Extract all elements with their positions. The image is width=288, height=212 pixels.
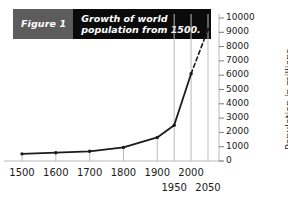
- chart-data-line: [22, 29, 208, 153]
- y-tick-label: 7000: [226, 55, 249, 65]
- x-tick-label: 1500: [9, 167, 34, 178]
- x-tick-label: 2000: [178, 167, 203, 178]
- x-tick-label: 1900: [145, 167, 170, 178]
- y-tick-label: 1000: [226, 141, 249, 151]
- chart-gridlines: [174, 14, 208, 161]
- chart-y-tickmarks: [219, 18, 224, 161]
- y-tick-label: 10000: [226, 12, 255, 22]
- chart-axes: [4, 14, 223, 161]
- y-tick-label: 6000: [226, 69, 249, 79]
- x-tick-label: 2050: [195, 182, 220, 193]
- y-tick-label: 3000: [226, 112, 249, 122]
- x-tick-label: 1600: [43, 167, 68, 178]
- y-tick-label: 2000: [226, 126, 249, 136]
- figure-container: Figure 1 Growth of world population from…: [0, 0, 288, 212]
- x-tick-label: 1800: [111, 167, 136, 178]
- y-tick-label: 8000: [226, 41, 249, 51]
- chart-x-tickmarks: [22, 137, 157, 161]
- y-tick-label: 5000: [226, 84, 249, 94]
- chart-data-markers: [20, 28, 209, 156]
- y-tick-label: 0: [226, 155, 232, 165]
- x-tick-label: 1950: [161, 182, 186, 193]
- chart-y-axis-label: Population in millions: [283, 49, 288, 150]
- x-tick-label: 1700: [77, 167, 102, 178]
- y-tick-label: 4000: [226, 98, 249, 108]
- y-tick-label: 9000: [226, 26, 249, 36]
